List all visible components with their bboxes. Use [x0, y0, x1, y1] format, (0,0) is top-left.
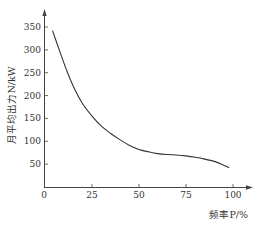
x-tick-label: 75 — [180, 190, 192, 200]
y-axis-arrow-icon — [42, 9, 46, 16]
x-tick-label: 0 — [41, 190, 47, 200]
y-tick-label: 250 — [24, 68, 41, 78]
y-tick-label: 300 — [24, 45, 41, 55]
chart: 50100150200250300350 0255075100 月平均出力N/k… — [0, 0, 257, 226]
x-ticks: 0255075100 — [41, 184, 242, 200]
y-tick-label: 150 — [24, 113, 41, 123]
axes — [42, 9, 253, 190]
y-tick-label: 350 — [24, 22, 41, 32]
y-tick-label: 100 — [24, 136, 41, 146]
x-axis-arrow-icon — [246, 185, 253, 189]
y-axis-label: 月平均出力N/kW — [6, 66, 17, 143]
y-tick-label: 50 — [30, 159, 42, 169]
data-series-line — [53, 31, 230, 168]
y-tick-label: 200 — [24, 91, 41, 101]
x-tick-label: 25 — [86, 190, 98, 200]
x-axis-label: 频率P/% — [209, 209, 248, 220]
x-tick-label: 100 — [224, 190, 241, 200]
x-tick-label: 50 — [133, 190, 145, 200]
